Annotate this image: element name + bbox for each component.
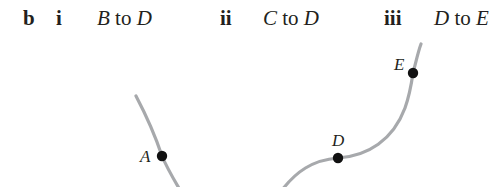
point-d-marker	[333, 153, 343, 163]
point-e-marker	[408, 68, 418, 78]
curve-diagram: A D E	[0, 0, 503, 187]
point-d-label: D	[331, 131, 345, 150]
point-a-marker	[157, 151, 167, 161]
point-e-label: E	[393, 55, 405, 74]
point-a-label: A	[139, 147, 151, 166]
curve-left-branch	[136, 96, 180, 187]
